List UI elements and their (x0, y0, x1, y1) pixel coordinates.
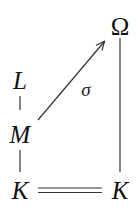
label-sigma: σ (81, 79, 91, 100)
node-L: L (12, 67, 27, 94)
node-K-right: K (111, 177, 130, 204)
node-K-left: K (11, 177, 30, 204)
commutative-diagram: Ω L M K K σ (0, 0, 139, 212)
node-M: M (9, 121, 32, 148)
arrow-sigma (38, 42, 104, 120)
node-omega: Ω (111, 13, 130, 40)
